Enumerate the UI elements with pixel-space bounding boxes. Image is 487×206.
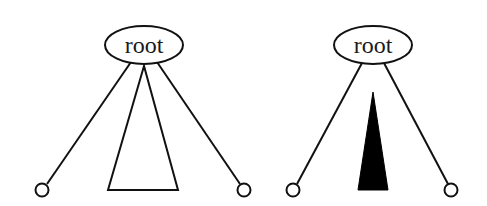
right-tree-right-edge — [384, 63, 448, 184]
left-tree-root-label: root — [125, 32, 164, 58]
right-tree-right-leaf — [445, 184, 458, 197]
right-tree: root — [287, 26, 458, 197]
left-tree: root — [36, 26, 251, 197]
right-tree-root-label: root — [354, 32, 393, 58]
left-tree-left-edge — [47, 62, 131, 184]
left-tree-right-edge — [157, 62, 240, 184]
diagram-canvas: root root — [0, 0, 487, 206]
left-tree-root-node: root — [105, 26, 183, 64]
right-tree-subtree-filled-triangle — [358, 92, 388, 190]
right-tree-left-leaf — [287, 184, 300, 197]
left-tree-right-leaf — [238, 184, 251, 197]
left-tree-left-leaf — [36, 184, 49, 197]
right-tree-root-node: root — [334, 26, 412, 64]
right-tree-left-edge — [297, 63, 362, 184]
left-tree-subtree-triangle — [108, 66, 178, 190]
